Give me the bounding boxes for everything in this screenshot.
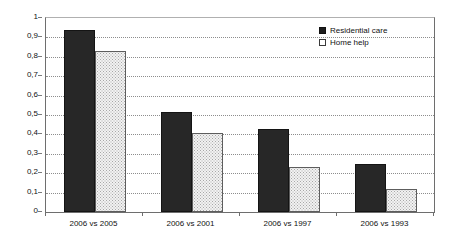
legend-item: Home help bbox=[318, 38, 388, 47]
y-tick-mark bbox=[38, 133, 42, 134]
y-tick-mark bbox=[38, 56, 42, 57]
x-axis-tick-marks bbox=[45, 212, 435, 217]
bar-1 bbox=[192, 133, 223, 212]
bar-1 bbox=[386, 189, 417, 212]
y-tick-label: 0,9 bbox=[27, 32, 38, 40]
bar-0 bbox=[258, 129, 289, 212]
x-tick-mark bbox=[142, 212, 143, 216]
x-axis-labels: 2006 vs 20052006 vs 20012006 vs 19972006… bbox=[45, 219, 433, 229]
y-tick-mark bbox=[38, 114, 42, 115]
legend-swatch-icon bbox=[319, 39, 326, 46]
y-tick-mark bbox=[38, 17, 42, 18]
bar-groups bbox=[46, 18, 434, 212]
bar-group bbox=[46, 18, 143, 212]
y-axis-title-container: Correlation coefficient bbox=[0, 17, 16, 211]
bar-0 bbox=[355, 164, 386, 213]
y-tick-mark bbox=[38, 95, 42, 96]
chart-legend: Residential careHome help bbox=[318, 26, 388, 47]
bar-group bbox=[143, 18, 240, 212]
y-tick-mark bbox=[38, 75, 42, 76]
legend-label: Residential care bbox=[330, 26, 387, 35]
x-axis-label: 2006 vs 2001 bbox=[142, 219, 239, 229]
y-tick-label: 0,1 bbox=[27, 188, 38, 196]
bar-group bbox=[337, 18, 434, 212]
bar-1 bbox=[289, 167, 320, 212]
y-axis-ticks: 10,90,80,70,60,50,40,30,20,10 bbox=[16, 17, 42, 211]
y-axis-title: Correlation coefficient bbox=[2, 0, 16, 45]
legend-item: Residential care bbox=[318, 26, 388, 35]
y-tick-label: 0,6 bbox=[27, 91, 38, 99]
bar-chart: Correlation coefficient 10,90,80,70,60,5… bbox=[0, 0, 449, 246]
x-axis-label: 2006 vs 2005 bbox=[45, 219, 142, 229]
x-axis-label: 2006 vs 1997 bbox=[239, 219, 336, 229]
bar-1 bbox=[95, 51, 126, 212]
y-tick-label: 0,5 bbox=[27, 110, 38, 118]
y-tick-mark bbox=[38, 192, 42, 193]
y-tick-mark bbox=[38, 36, 42, 37]
y-tick-mark bbox=[38, 172, 42, 173]
bar-0 bbox=[64, 30, 95, 212]
x-tick-mark bbox=[336, 212, 337, 216]
y-tick-label: 0,2 bbox=[27, 168, 38, 176]
y-tick-mark bbox=[38, 211, 42, 212]
x-tick-mark bbox=[433, 212, 434, 216]
y-tick-label: 0,7 bbox=[27, 71, 38, 79]
x-tick-mark bbox=[239, 212, 240, 216]
y-tick-mark bbox=[38, 153, 42, 154]
legend-swatch-icon bbox=[319, 27, 326, 34]
y-tick-label: 0,4 bbox=[27, 129, 38, 137]
x-axis-label: 2006 vs 1993 bbox=[336, 219, 433, 229]
bar-0 bbox=[161, 112, 192, 212]
y-tick-label: 0,3 bbox=[27, 149, 38, 157]
x-tick-mark bbox=[45, 212, 46, 216]
y-tick-label: 0,8 bbox=[27, 52, 38, 60]
bar-group bbox=[240, 18, 337, 212]
legend-label: Home help bbox=[330, 38, 369, 47]
